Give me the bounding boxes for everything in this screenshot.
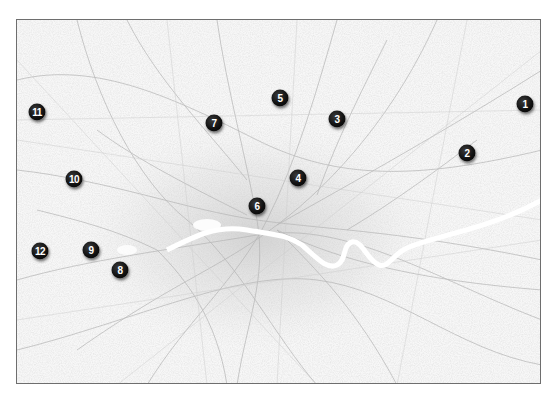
street-map-background — [17, 20, 541, 384]
map-marker-3[interactable]: 3 — [329, 111, 346, 128]
map-marker-6[interactable]: 6 — [249, 198, 266, 215]
map-marker-10[interactable]: 10 — [66, 171, 83, 188]
map-marker-1[interactable]: 1 — [517, 96, 534, 113]
map-marker-8[interactable]: 8 — [112, 262, 129, 279]
map-marker-9[interactable]: 9 — [83, 242, 100, 259]
map-marker-5[interactable]: 5 — [272, 90, 289, 107]
map-marker-11[interactable]: 11 — [29, 104, 46, 121]
map-marker-4[interactable]: 4 — [290, 170, 307, 187]
map-marker-2[interactable]: 2 — [459, 145, 476, 162]
map-frame[interactable] — [16, 19, 541, 384]
map-marker-7[interactable]: 7 — [206, 115, 223, 132]
map-marker-12[interactable]: 12 — [32, 243, 49, 260]
